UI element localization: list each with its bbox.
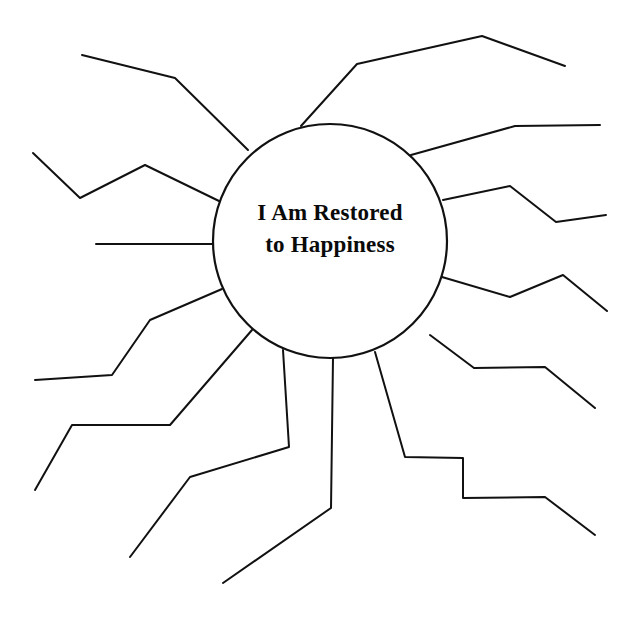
hub-label-line-1: I Am Restored (257, 200, 402, 225)
radial-web-diagram: I Am Restored to Happiness (0, 0, 639, 629)
organizer-canvas: I Am Restored to Happiness (0, 0, 639, 629)
hub-label-line-2: to Happiness (265, 232, 395, 257)
